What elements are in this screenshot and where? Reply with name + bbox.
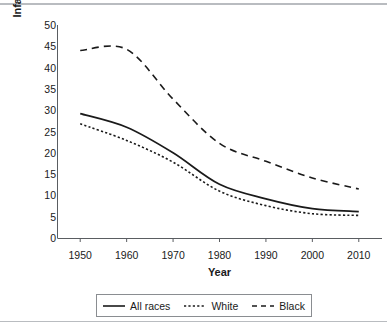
x-tick-label: 1970 <box>161 249 184 261</box>
y-tick-label: 45 <box>44 41 56 51</box>
legend-swatch-dashed <box>252 302 274 310</box>
y-tick-label: 20 <box>44 148 56 158</box>
y-tick-label: 40 <box>44 63 56 73</box>
bottom-divider <box>0 321 387 322</box>
legend-swatch-dotted <box>184 302 206 310</box>
top-divider <box>0 3 387 5</box>
plot-area <box>57 25 382 245</box>
legend-item-white[interactable]: White <box>177 300 245 312</box>
x-axis-tick-labels: 1950196019701980199020002010 <box>57 249 382 263</box>
y-axis-tick-labels: 05101520253035404550 <box>30 25 56 245</box>
axis-lines <box>58 25 383 239</box>
y-tick-label: 50 <box>44 20 56 30</box>
y-axis-label: Infant Deaths per 1,000 Live Births <box>8 0 26 39</box>
legend-label-white: White <box>211 300 238 312</box>
chart-svg <box>57 25 382 245</box>
data-series-group <box>80 46 359 215</box>
line-chart-figure: Infant Deaths per 1,000 Live Births 0510… <box>0 6 387 318</box>
x-tick-label: 1960 <box>115 249 138 261</box>
legend-item-black[interactable]: Black <box>245 300 312 312</box>
x-tick-label: 2000 <box>301 249 324 261</box>
series-line-all-races <box>80 114 359 212</box>
y-tick-label: 30 <box>44 105 56 115</box>
x-tick-label: 1950 <box>69 249 92 261</box>
y-tick-label: 5 <box>50 212 56 222</box>
y-tick-label: 15 <box>44 169 56 179</box>
x-tick-label: 2010 <box>347 249 370 261</box>
x-axis-label: Year <box>57 266 382 278</box>
chart-legend: All races White Black <box>96 294 312 317</box>
series-line-white <box>80 124 359 216</box>
y-tick-label: 25 <box>44 127 56 137</box>
legend-label-all-races: All races <box>130 300 170 312</box>
y-tick-label: 10 <box>44 190 56 200</box>
legend-label-black: Black <box>279 300 305 312</box>
x-tick-label: 1990 <box>254 249 277 261</box>
y-tick-label: 0 <box>50 233 56 243</box>
legend-item-all-races[interactable]: All races <box>96 300 177 312</box>
y-tick-label: 35 <box>44 84 56 94</box>
legend-swatch-solid <box>103 302 125 310</box>
figure-page: Infant Deaths per 1,000 Live Births 0510… <box>0 0 387 328</box>
series-line-black <box>80 46 359 189</box>
x-tick-label: 1980 <box>208 249 231 261</box>
